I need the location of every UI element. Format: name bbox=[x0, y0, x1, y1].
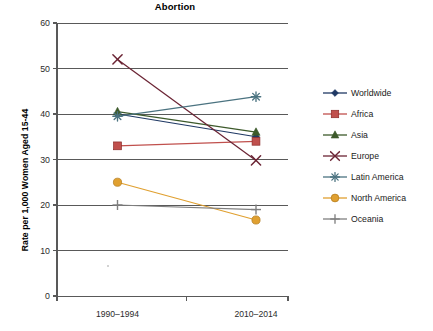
square-marker bbox=[114, 142, 122, 150]
scan-artifact-speck bbox=[107, 265, 109, 267]
x-marker bbox=[113, 55, 122, 64]
legend-item-label: Asia bbox=[348, 130, 368, 140]
series-worldwide bbox=[118, 114, 257, 137]
legend-marker-square-marker bbox=[322, 107, 348, 121]
data-series-group bbox=[107, 55, 261, 267]
series-north-america bbox=[118, 182, 257, 220]
legend-item-north-america[interactable]: North America bbox=[322, 187, 433, 208]
y-tick-label: 60 bbox=[24, 18, 50, 28]
abortion-rate-line-chart: Abortion Rate per 1,000 Women Aged 15-44… bbox=[0, 0, 433, 331]
legend-item-label: North America bbox=[348, 193, 406, 203]
asterisk-marker bbox=[251, 92, 260, 101]
series-oceania bbox=[118, 205, 257, 210]
gridlines bbox=[57, 23, 288, 296]
x-tick-label: 1990–1994 bbox=[73, 309, 163, 319]
y-tick-label: 20 bbox=[24, 200, 50, 210]
y-tick-label: 50 bbox=[24, 64, 50, 74]
x-tick-label: 2010–2014 bbox=[211, 309, 301, 319]
legend-marker-diamond-marker bbox=[322, 86, 348, 100]
circle-marker bbox=[252, 216, 260, 224]
legend-item-label: Europe bbox=[348, 151, 379, 161]
diamond-marker bbox=[332, 89, 339, 96]
y-tick-label: 0 bbox=[24, 291, 50, 301]
axis-lines bbox=[53, 23, 288, 301]
legend-item-europe[interactable]: Europe bbox=[322, 145, 433, 166]
legend-item-oceania[interactable]: Oceania bbox=[322, 208, 433, 229]
circle-marker bbox=[113, 178, 121, 186]
legend-marker-plus-marker bbox=[322, 212, 348, 226]
y-tick-label: 30 bbox=[24, 155, 50, 165]
circle-marker bbox=[331, 194, 339, 202]
legend-item-label: Latin America bbox=[348, 172, 404, 182]
legend-item-label: Africa bbox=[348, 109, 373, 119]
square-marker bbox=[331, 110, 338, 117]
series-latin-america bbox=[118, 97, 257, 117]
legend-item-africa[interactable]: Africa bbox=[322, 103, 433, 124]
legend-item-label: Worldwide bbox=[348, 88, 391, 98]
x-marker bbox=[251, 156, 260, 165]
legend-item-worldwide[interactable]: Worldwide bbox=[322, 82, 433, 103]
plus-marker bbox=[251, 205, 261, 215]
legend-marker-circle-marker bbox=[322, 191, 348, 205]
asterisk-marker bbox=[331, 172, 340, 181]
series-asia bbox=[118, 112, 257, 132]
plus-marker bbox=[113, 200, 123, 210]
legend-item-latin-america[interactable]: Latin America bbox=[322, 166, 433, 187]
legend-item-asia[interactable]: Asia bbox=[322, 124, 433, 145]
asterisk-marker bbox=[113, 112, 122, 121]
legend-marker-triangle-marker bbox=[322, 128, 348, 142]
square-marker bbox=[252, 137, 260, 145]
legend-item-label: Oceania bbox=[348, 214, 383, 224]
y-tick-label: 10 bbox=[24, 246, 50, 256]
legend: WorldwideAfricaAsiaEuropeLatin AmericaNo… bbox=[322, 82, 433, 229]
legend-marker-x-marker bbox=[322, 149, 348, 163]
legend-marker-asterisk-marker bbox=[322, 170, 348, 184]
y-tick-label: 40 bbox=[24, 109, 50, 119]
plus-marker bbox=[330, 214, 340, 224]
